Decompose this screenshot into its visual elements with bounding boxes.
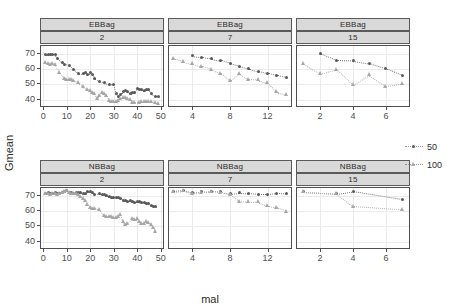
data-point (351, 204, 355, 208)
x-axis-tick-label: 4 (182, 253, 202, 263)
facet-strip-row-label: NBBag (168, 160, 292, 173)
x-axis-tick-label: 30 (104, 111, 124, 121)
data-point (97, 207, 101, 211)
x-axis-tick-label: 20 (80, 111, 100, 121)
data-point (400, 207, 404, 211)
data-point (285, 192, 288, 195)
x-axis-tick-label: 40 (127, 253, 147, 263)
x-axis-tick-label: 50 (151, 111, 171, 121)
data-point (284, 92, 288, 96)
data-point (199, 64, 203, 68)
facet-strip-col-label: 2 (40, 173, 164, 186)
chart-panel (168, 45, 292, 107)
data-point (301, 189, 305, 193)
x-axis-tick-label: 8 (220, 253, 240, 263)
x-axis-tick-label: 0 (33, 111, 53, 121)
y-axis-label: Gmean (2, 0, 16, 306)
data-point (319, 52, 322, 55)
data-point (54, 53, 57, 56)
x-axis-tick-label: 4 (182, 111, 202, 121)
x-axis-tick-label: 4 (343, 111, 363, 121)
data-point (210, 57, 213, 60)
data-point (92, 206, 96, 210)
data-point (190, 61, 194, 65)
data-point (133, 91, 136, 94)
data-point (367, 72, 371, 76)
data-point (228, 192, 232, 196)
data-point (150, 92, 153, 95)
x-axis-tick-label: 6 (376, 111, 396, 121)
data-point (401, 198, 404, 201)
x-axis-tick-label: 10 (57, 253, 77, 263)
data-point (181, 188, 185, 192)
chart-panel (40, 187, 164, 249)
y-axis-tick-label: 40 (13, 94, 35, 104)
data-point (92, 91, 96, 95)
data-point (257, 193, 260, 196)
data-point (256, 77, 260, 81)
data-point (246, 199, 250, 203)
y-axis-tick-label: 70 (13, 190, 35, 200)
facet-strip-col-label: 15 (296, 173, 410, 186)
data-point (274, 205, 278, 209)
data-point (284, 209, 288, 213)
y-axis-tick-label: 50 (13, 78, 35, 88)
data-point (171, 56, 175, 60)
x-axis-label: mal (0, 293, 420, 305)
data-point (352, 190, 355, 193)
facet-strip-row-label: NBBag (296, 160, 410, 173)
data-point (181, 59, 185, 63)
data-point (266, 193, 269, 196)
data-point (125, 221, 129, 225)
data-point (218, 190, 222, 194)
data-point (228, 78, 232, 82)
data-point (112, 83, 115, 86)
facet-strip-col-label: 7 (168, 173, 292, 186)
data-point (104, 93, 108, 97)
legend: 50 100 (405, 138, 457, 174)
data-point (156, 101, 160, 105)
data-point (153, 229, 157, 233)
y-axis-tick-label: 60 (13, 205, 35, 215)
x-axis-tick-label: 12 (258, 111, 278, 121)
chart-panel (296, 45, 410, 107)
data-point (154, 205, 157, 208)
chart-panel (296, 187, 410, 249)
data-point (218, 71, 222, 75)
data-point (118, 212, 122, 216)
facet-strip-col-label: 2 (40, 31, 164, 44)
data-point (301, 61, 305, 65)
triangle-marker-icon (405, 158, 423, 172)
y-axis-tick-label: 40 (13, 236, 35, 246)
data-point (171, 189, 175, 193)
facet-strip-col-label: 7 (168, 31, 292, 44)
data-point (132, 100, 136, 104)
data-point (334, 191, 338, 195)
data-point (151, 225, 155, 229)
data-point (334, 67, 338, 71)
data-point (237, 199, 241, 203)
data-point (285, 76, 288, 79)
x-axis-tick-label: 30 (104, 253, 124, 263)
x-axis-tick-label: 40 (127, 111, 147, 121)
chart-panel (40, 45, 164, 107)
y-axis-tick-label: 70 (13, 48, 35, 58)
facet-strip-row-label: EBBag (40, 18, 164, 31)
data-point (237, 71, 241, 75)
data-point (68, 64, 71, 67)
legend-item-50[interactable]: 50 (405, 138, 457, 156)
x-axis-tick-label: 0 (33, 253, 53, 263)
data-point (246, 77, 250, 81)
facet-scatter-plot: Gmean mal EBBag24050607001020304050EBBag… (0, 0, 459, 306)
x-axis-tick-label: 2 (310, 253, 330, 263)
x-axis-tick-label: 12 (258, 253, 278, 263)
data-point (108, 83, 111, 86)
data-point (352, 59, 355, 62)
data-point (368, 62, 371, 65)
legend-label-100: 100 (427, 160, 442, 170)
legend-item-100[interactable]: 100 (405, 156, 457, 174)
y-axis-tick-label: 50 (13, 220, 35, 230)
data-point (81, 84, 85, 88)
data-point (383, 84, 387, 88)
facet-strip-row-label: EBBag (168, 18, 292, 31)
